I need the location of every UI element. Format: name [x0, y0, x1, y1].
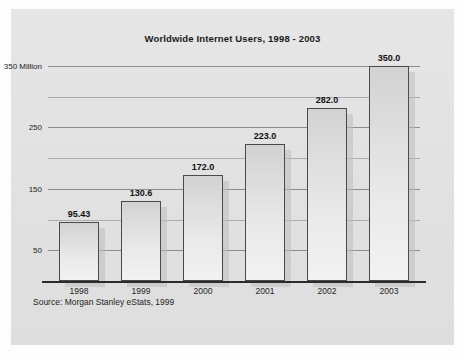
bar-value-label: 282.0 — [316, 95, 339, 105]
bar-value-label: 350.0 — [378, 53, 401, 63]
x-axis-tick-label-1998: 1998 — [70, 286, 89, 296]
gridline-150 — [48, 189, 420, 190]
x-axis-tick-label-2000: 2000 — [194, 286, 213, 296]
x-axis-tick-label-1999: 1999 — [132, 286, 151, 296]
bar-1998[interactable]: 95.431998 — [59, 222, 99, 281]
y-axis-tick-label-350: 350 Million — [4, 62, 42, 71]
gridline-200 — [48, 158, 420, 159]
gridline-350 — [48, 66, 420, 67]
gridline-100 — [48, 220, 420, 221]
bar-rect[interactable] — [245, 144, 285, 281]
bar-2001[interactable]: 223.02001 — [245, 144, 285, 281]
bar-value-label: 172.0 — [192, 162, 215, 172]
x-axis-line — [42, 281, 426, 283]
bar-2003[interactable]: 350.02003 — [369, 66, 409, 281]
chart-figure: Worldwide Internet Users, 1998 - 2003 50… — [0, 0, 465, 354]
bar-value-label: 130.6 — [130, 188, 153, 198]
bar-2000[interactable]: 172.02000 — [183, 175, 223, 281]
x-axis-tick-label-2001: 2001 — [256, 286, 275, 296]
gridline-250 — [48, 127, 420, 128]
gridline-300 — [48, 97, 420, 98]
plot-area: 50150250350 Million 95.431998130.6199917… — [48, 60, 420, 281]
bar-rect[interactable] — [183, 175, 223, 281]
y-axis-tick-label-50: 50 — [33, 246, 42, 255]
y-axis-tick-label-250: 250 — [29, 123, 42, 132]
bar-rect[interactable] — [307, 108, 347, 281]
bar-value-label: 95.43 — [68, 209, 91, 219]
y-axis-tick-label-150: 150 — [29, 184, 42, 193]
bar-rect[interactable] — [121, 201, 161, 281]
chart-title: Worldwide Internet Users, 1998 - 2003 — [0, 33, 465, 44]
bar-2002[interactable]: 282.02002 — [307, 108, 347, 281]
bar-1999[interactable]: 130.61999 — [121, 201, 161, 281]
x-axis-tick-label-2002: 2002 — [318, 286, 337, 296]
source-note: Source: Morgan Stanley eStats, 1999 — [33, 297, 174, 307]
bar-rect[interactable] — [369, 66, 409, 281]
x-axis-tick-label-2003: 2003 — [380, 286, 399, 296]
bar-value-label: 223.0 — [254, 131, 277, 141]
bar-rect[interactable] — [59, 222, 99, 281]
